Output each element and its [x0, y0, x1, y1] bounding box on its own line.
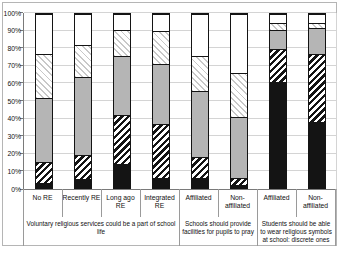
- y-axis-label: 40%: [0, 115, 21, 122]
- y-axis-label: 10%: [0, 168, 21, 175]
- bar-segment-gray-diagonal-hatch: [114, 30, 130, 56]
- bar-segment-black-diagonal-hatch: [309, 54, 325, 122]
- bar-segment-solid-black: [36, 183, 52, 188]
- bar-segment-gray-diagonal-hatch: [231, 73, 247, 117]
- gridline-10: [24, 170, 336, 171]
- bar-segment-solid-gray: [192, 91, 208, 157]
- gridline-90: [24, 30, 336, 31]
- group-divider: [335, 189, 336, 246]
- bar-segment-gray-diagonal-hatch: [309, 23, 325, 28]
- bar-1: [35, 13, 53, 189]
- gridline-80: [24, 47, 336, 48]
- group-divider: [257, 189, 258, 246]
- bar-segment-solid-gray: [153, 64, 169, 123]
- bar-segment-solid-gray: [75, 77, 91, 155]
- category-divider: [101, 189, 102, 217]
- bar-4: [152, 13, 170, 189]
- bar-segment-white: [231, 14, 247, 73]
- bar-segment-solid-gray: [36, 98, 52, 162]
- y-axis-label: 70%: [0, 62, 21, 69]
- group-label: Voluntary religious services could be a …: [19, 220, 183, 236]
- bar-segment-white: [114, 14, 130, 30]
- bar-segment-white: [270, 14, 286, 23]
- bar-segment-black-diagonal-hatch: [270, 49, 286, 82]
- bar-segment-white: [192, 14, 208, 56]
- bar-segment-gray-diagonal-hatch: [192, 56, 208, 91]
- bar-segment-solid-black: [270, 82, 286, 188]
- y-axis-label: 90%: [0, 27, 21, 34]
- plot-area: [23, 13, 337, 190]
- gridline-100: [24, 12, 336, 13]
- category-divider: [218, 189, 219, 217]
- y-axis-label: 30%: [0, 133, 21, 140]
- gridline-70: [24, 65, 336, 66]
- bar-segment-black-diagonal-hatch: [192, 157, 208, 178]
- bar-segment-gray-diagonal-hatch: [270, 23, 286, 30]
- bar-segment-white: [36, 14, 52, 54]
- gridline-40: [24, 118, 336, 119]
- y-axis-label: 0%: [0, 186, 21, 193]
- category-divider: [62, 189, 63, 217]
- bar-segment-black-diagonal-hatch: [114, 115, 130, 164]
- bar-segment-solid-gray: [309, 28, 325, 54]
- stacked-bar-chart: 0%10%20%30%40%50%60%70%80%90%100% No RER…: [0, 0, 342, 258]
- bar-segment-solid-gray: [114, 56, 130, 115]
- y-axis-label: 80%: [0, 45, 21, 52]
- bar-3: [113, 13, 131, 189]
- bar-segment-gray-diagonal-hatch: [36, 54, 52, 98]
- bar-segment-black-diagonal-hatch: [231, 178, 247, 185]
- bar-segment-black-diagonal-hatch: [75, 155, 91, 179]
- gridline-50: [24, 100, 336, 101]
- bar-segment-white: [153, 14, 169, 31]
- y-axis-label: 100%: [0, 10, 21, 17]
- bar-segment-solid-black: [75, 179, 91, 188]
- bar-segment-gray-diagonal-hatch: [75, 45, 91, 76]
- bar-segment-gray-diagonal-hatch: [153, 31, 169, 64]
- y-axis-label: 20%: [0, 150, 21, 157]
- gridline-30: [24, 135, 336, 136]
- bar-segment-black-diagonal-hatch: [153, 124, 169, 178]
- bar-segment-solid-black: [192, 178, 208, 188]
- y-axis-label: 50%: [0, 98, 21, 105]
- gridline-60: [24, 82, 336, 83]
- bar-segment-black-diagonal-hatch: [36, 162, 52, 183]
- group-divider: [179, 189, 180, 246]
- bar-segment-solid-black: [153, 178, 169, 188]
- bar-segment-solid-gray: [270, 30, 286, 49]
- group-divider: [23, 189, 24, 246]
- bar-2: [74, 13, 92, 189]
- gridline-20: [24, 153, 336, 154]
- bar-segment-solid-black: [231, 185, 247, 188]
- y-axis-label: 60%: [0, 80, 21, 87]
- group-label: Schools should provide facilities for pu…: [175, 220, 261, 236]
- bar-segment-solid-black: [114, 164, 130, 188]
- category-divider: [296, 189, 297, 217]
- bar-7: [269, 13, 287, 189]
- group-label: Students should be able to wear religiou…: [253, 220, 339, 244]
- bar-segment-white: [309, 14, 325, 23]
- bar-6: [230, 13, 248, 189]
- bar-5: [191, 13, 209, 189]
- bar-segment-solid-gray: [231, 117, 247, 178]
- category-label: Non- affiliated: [293, 194, 339, 210]
- category-divider: [140, 189, 141, 217]
- bar-segment-white: [75, 14, 91, 45]
- bar-segment-solid-black: [309, 122, 325, 188]
- bar-8: [308, 13, 326, 189]
